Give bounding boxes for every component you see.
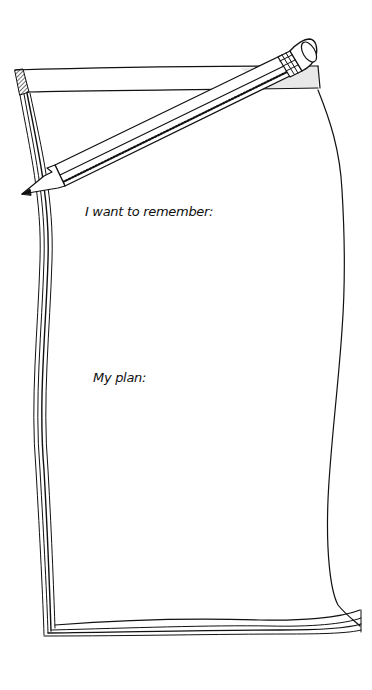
plan-label: My plan: <box>93 370 146 385</box>
plan-writing-area[interactable] <box>80 392 330 612</box>
notepad-worksheet: I want to remember: My plan: <box>0 0 372 690</box>
remember-label: I want to remember: <box>85 204 213 219</box>
remember-writing-area[interactable] <box>80 225 330 355</box>
